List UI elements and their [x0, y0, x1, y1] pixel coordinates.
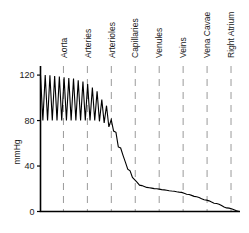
category-label-venules: Venules [154, 28, 164, 58]
category-label-right-atrium: Right Atrium [226, 12, 236, 58]
y-axis-title: mmHg [12, 139, 22, 164]
category-label-capillaries: Capillaries [130, 18, 140, 58]
y-tick-label-80: 80 [24, 116, 34, 126]
category-label-veins: Veins [178, 37, 188, 58]
chart-canvas: 04080120 mmHg AortaArteriesArteriolesCap… [0, 0, 249, 233]
y-tick-label-120: 120 [19, 70, 34, 80]
y-tick-label-0: 0 [29, 207, 34, 217]
category-label-aorta: Aorta [59, 37, 69, 58]
category-label-arteries: Arteries [83, 29, 93, 58]
blood-pressure-chart: 04080120 mmHg AortaArteriesArteriolesCap… [0, 0, 249, 233]
category-label-arterioles: Arterioles [107, 22, 117, 58]
y-tick-label-40: 40 [24, 161, 34, 171]
category-label-vena-cavae: Vena Cavae [202, 11, 212, 58]
